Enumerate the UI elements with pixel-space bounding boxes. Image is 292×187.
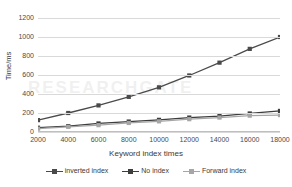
gridline-600 bbox=[38, 75, 280, 76]
legend-label: Forward index bbox=[202, 167, 246, 175]
data-point bbox=[38, 118, 40, 122]
data-point bbox=[248, 47, 252, 51]
y-tick-label: 1200 bbox=[0, 14, 34, 22]
legend-swatch-icon bbox=[46, 168, 63, 175]
line-chart: RESEARCHGATE 020040060080010001200 20004… bbox=[0, 0, 292, 187]
x-tick-label: 4000 bbox=[51, 136, 85, 144]
x-tick-label: 8000 bbox=[112, 136, 146, 144]
x-tick-label: 12000 bbox=[172, 136, 206, 144]
data-point bbox=[96, 103, 100, 107]
legend-swatch-icon bbox=[122, 168, 139, 175]
legend-swatch-icon bbox=[183, 168, 200, 175]
legend-item-forward-index[interactable]: Forward index bbox=[183, 167, 246, 175]
legend-item-no-index[interactable]: No index bbox=[122, 167, 169, 175]
data-point bbox=[157, 85, 161, 89]
legend-label: No index bbox=[141, 167, 169, 175]
chart-legend: inverted indexNo indexForward index bbox=[0, 167, 292, 175]
y-tick-label: 0 bbox=[0, 128, 34, 136]
data-point bbox=[127, 121, 131, 125]
gridline-800 bbox=[38, 56, 280, 57]
series-line-inverted-index bbox=[38, 37, 280, 120]
x-tick-label: 18000 bbox=[263, 136, 292, 144]
data-point bbox=[248, 114, 252, 118]
legend-label: inverted index bbox=[65, 167, 109, 175]
x-axis-line bbox=[38, 131, 280, 132]
x-tick-label: 16000 bbox=[233, 136, 267, 144]
data-point bbox=[127, 95, 131, 99]
gridline-1200 bbox=[38, 18, 280, 19]
gridline-200 bbox=[38, 113, 280, 114]
x-tick-label: 6000 bbox=[82, 136, 116, 144]
gridline-0 bbox=[38, 132, 280, 133]
gridline-400 bbox=[38, 94, 280, 95]
y-tick-label: 200 bbox=[0, 109, 34, 117]
x-tick-label: 2000 bbox=[21, 136, 55, 144]
data-point bbox=[157, 119, 161, 123]
data-point bbox=[66, 125, 70, 129]
data-point bbox=[96, 123, 100, 127]
x-tick-label: 10000 bbox=[142, 136, 176, 144]
data-point bbox=[187, 117, 191, 121]
data-point bbox=[217, 61, 221, 65]
legend-item-inverted-index[interactable]: inverted index bbox=[46, 167, 109, 175]
y-axis-title: Time/ms bbox=[5, 38, 13, 94]
gridline-1000 bbox=[38, 37, 280, 38]
plot-area bbox=[38, 18, 280, 132]
data-point bbox=[217, 115, 221, 119]
x-axis-title: Keyword index times bbox=[0, 149, 292, 158]
x-tick-label: 14000 bbox=[203, 136, 237, 144]
